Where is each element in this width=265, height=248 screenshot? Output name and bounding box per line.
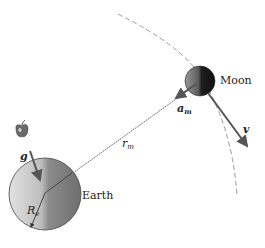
apple-icon — [16, 120, 28, 137]
earth-label: Earth — [82, 189, 113, 202]
distance-label: rm — [122, 137, 134, 151]
gravity-label: g — [20, 150, 28, 163]
moon-label: Moon — [220, 74, 252, 87]
acceleration-label: am — [177, 102, 192, 116]
moon — [185, 66, 215, 96]
orbit-diagram: Moon Earth am v g rm Re — [0, 0, 265, 248]
velocity-label: v — [243, 123, 250, 136]
